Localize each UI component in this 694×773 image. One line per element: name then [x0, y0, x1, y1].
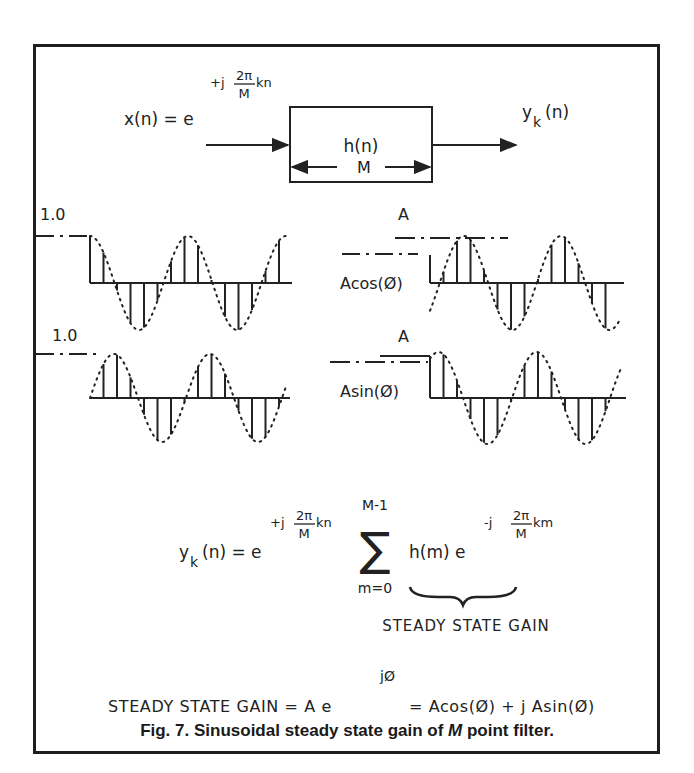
svg-text:(n) = e: (n) = e — [202, 542, 262, 562]
waveform-acos — [430, 236, 624, 330]
sum-upper-limit: M-1 — [362, 497, 388, 513]
svg-text:= Acos(Ø) + j Asin(Ø): = Acos(Ø) + j Asin(Ø) — [409, 697, 595, 716]
filter-label: h(n) — [344, 136, 379, 156]
svg-text:k: k — [533, 114, 542, 130]
svg-text:M: M — [298, 526, 309, 541]
input-exponent: +j 2π M kn — [210, 68, 272, 101]
sum-symbol: ∑ — [360, 522, 391, 576]
svg-text:2π: 2π — [236, 68, 252, 83]
length-label: M — [357, 158, 371, 177]
waveform-asin — [430, 352, 626, 444]
gain-equation: STEADY STATE GAIN = A e jØ = Acos(Ø) + j… — [108, 668, 595, 716]
svg-text:M: M — [238, 86, 249, 101]
figure-caption: Fig. 7. Sinusoidal steady state gain of … — [0, 721, 694, 741]
figure-diagram: x(n) = e +j 2π M kn h(n) y k (n) M 1.0 A… — [0, 0, 694, 773]
asin-label: Asin(Ø) — [340, 382, 399, 401]
gain-exponent: jØ — [379, 668, 395, 684]
output-label: y k (n) — [522, 102, 569, 130]
svg-text:+j: +j — [270, 515, 285, 530]
block-diagram: x(n) = e +j 2π M kn h(n) y k (n) M — [124, 68, 569, 182]
input-label: x(n) = e — [124, 109, 194, 129]
svg-text:kn: kn — [316, 515, 332, 530]
underbrace — [410, 587, 516, 605]
level-label-top-right: A — [398, 205, 409, 224]
svg-text:h(m) e: h(m) e — [409, 542, 465, 562]
level-label-bottom-right: A — [398, 327, 409, 346]
svg-text:kn: kn — [256, 75, 272, 90]
brace-label: STEADY STATE GAIN — [382, 617, 550, 635]
waveform-sine — [90, 354, 290, 442]
svg-text:+j: +j — [210, 75, 225, 90]
svg-text:-j: -j — [484, 515, 492, 530]
svg-text:2π: 2π — [296, 508, 312, 523]
svg-text:M: M — [515, 526, 526, 541]
sum-lower-limit: m=0 — [358, 580, 392, 596]
waveform-cosine — [90, 236, 292, 330]
svg-text:k: k — [190, 554, 199, 570]
output-equation: y k (n) = e +j 2π M kn M-1 ∑ m=0 h(m) e … — [179, 497, 553, 635]
level-label-top-left: 1.0 — [40, 205, 65, 224]
level-label-bottom-left: 1.0 — [52, 326, 77, 345]
svg-text:km: km — [533, 515, 553, 530]
acos-label: Acos(Ø) — [340, 274, 403, 293]
svg-text:y: y — [179, 542, 189, 562]
svg-text:y: y — [522, 102, 532, 122]
svg-text:(n): (n) — [545, 102, 569, 122]
svg-text:STEADY STATE GAIN = A e: STEADY STATE GAIN = A e — [108, 697, 332, 716]
svg-text:2π: 2π — [513, 508, 529, 523]
